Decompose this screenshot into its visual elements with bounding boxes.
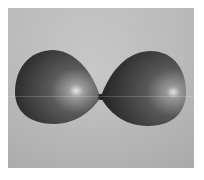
balloons-illustration <box>8 8 194 168</box>
scan-artifact-line <box>8 96 194 97</box>
photo-frame <box>8 8 194 168</box>
left-balloon <box>15 50 100 124</box>
balloon-knot <box>98 94 102 100</box>
right-balloon <box>101 51 186 126</box>
